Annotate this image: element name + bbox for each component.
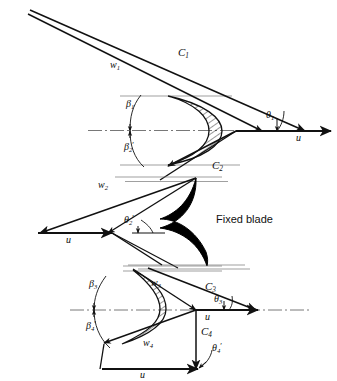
label-w3: w3 <box>151 278 161 289</box>
w4-closure <box>100 344 104 369</box>
label-fixed-blade: Fixed blade <box>216 213 273 225</box>
label-beta2-prime: β2′ <box>124 142 134 153</box>
label-theta4-prime: θ4′ <box>212 343 222 354</box>
label-w4: w4 <box>143 338 153 349</box>
label-u-stage1: u <box>296 133 301 143</box>
w2-prime-vector-stage1 <box>168 131 236 166</box>
w1-vector <box>28 14 262 131</box>
label-beta1: β1 <box>126 99 134 110</box>
label-beta4-prime: β4′ <box>86 321 96 332</box>
label-C1: C1 <box>178 47 189 60</box>
label-w2: w2 <box>98 180 108 191</box>
c1-vector <box>30 10 305 131</box>
label-u-stage3-top: u <box>205 312 210 322</box>
label-u-stage3-bottom: u <box>140 370 145 380</box>
label-beta3: β3 <box>89 279 97 290</box>
label-theta2-prime: θ2′ <box>124 215 134 226</box>
label-theta1: θ1 <box>266 110 274 121</box>
label-u-fixed: u <box>66 235 71 245</box>
label-C2: C2 <box>212 160 223 173</box>
stage1-group <box>28 10 331 180</box>
stage3-inlet-line-a <box>112 233 162 265</box>
label-theta3: θ3 <box>214 294 222 305</box>
theta4-prime-pointer <box>199 362 206 368</box>
stage3-inlet-line-b <box>112 233 178 268</box>
c2-vector <box>160 131 236 180</box>
label-w1: w1 <box>110 60 120 71</box>
theta3-arc <box>229 296 232 310</box>
theta2-prime-arc <box>141 220 153 233</box>
diagram-canvas: C1 w1 β1 β2′ θ1 u C2 w2 θ2′ u Fixed blad… <box>0 0 337 381</box>
turbine-velocity-diagram <box>0 0 337 381</box>
label-C4: C4 <box>201 326 212 339</box>
fixed-blade-profile <box>160 178 208 266</box>
theta4-prime-arc <box>199 350 212 368</box>
stage3-group <box>70 266 310 369</box>
